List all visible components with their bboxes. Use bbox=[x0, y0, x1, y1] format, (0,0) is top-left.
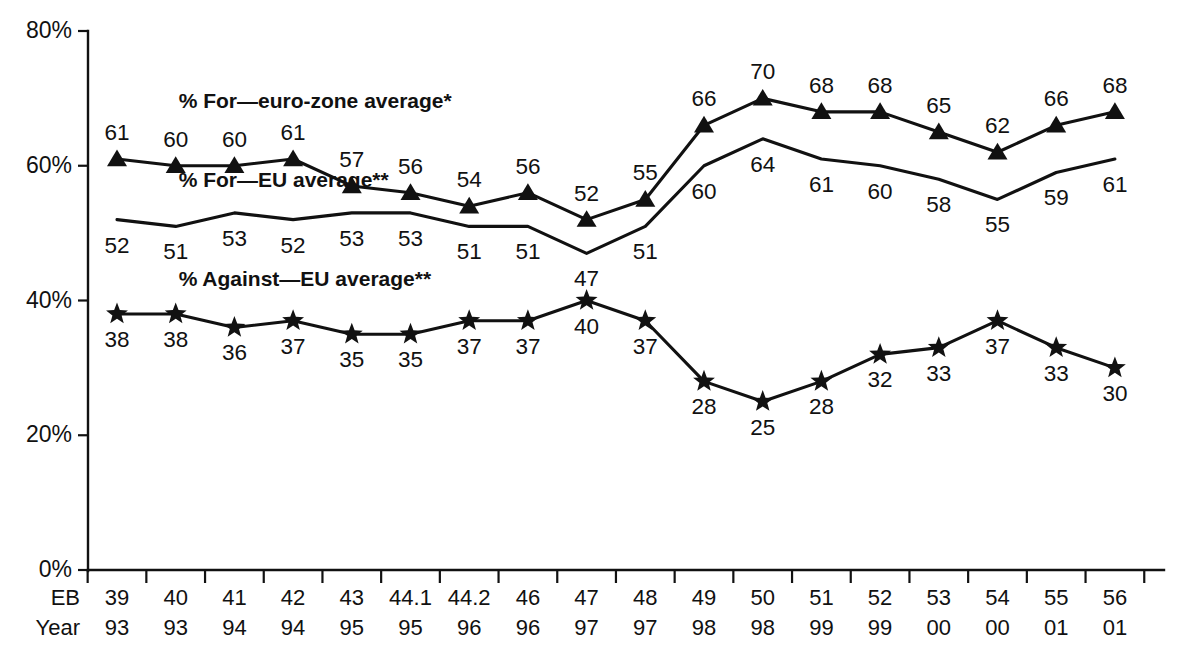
legend-annotation-1: % For—euro-zone average* bbox=[179, 89, 453, 112]
data-point-label: 60 bbox=[163, 127, 188, 152]
x-tick-label-eb: 40 bbox=[163, 585, 187, 610]
y-tick-label: 80% bbox=[26, 17, 72, 43]
x-tick-label-year: 97 bbox=[574, 615, 598, 640]
chart-container: 0%20%40%60%80% 6160606157565456525566706… bbox=[0, 0, 1177, 667]
x-tick-label-year: 01 bbox=[1103, 615, 1127, 640]
x-tick-label-eb: 44.1 bbox=[389, 585, 432, 610]
data-point-label: 52 bbox=[574, 181, 599, 206]
data-point-label: 28 bbox=[809, 394, 834, 419]
data-point-label: 33 bbox=[926, 361, 951, 386]
data-point-label: 30 bbox=[1102, 381, 1127, 406]
data-point-label: 51 bbox=[163, 239, 188, 264]
y-tick-label: 40% bbox=[26, 287, 72, 313]
x-tick-label-year: 99 bbox=[809, 615, 833, 640]
x-tick-label-year: 96 bbox=[516, 615, 540, 640]
data-point-marker bbox=[752, 390, 774, 411]
data-point-marker bbox=[869, 343, 891, 364]
series-1: 616060615756545652556670686865626668 bbox=[104, 59, 1127, 226]
data-point-label: 53 bbox=[339, 226, 364, 251]
data-point-label: 53 bbox=[222, 226, 247, 251]
x-axis bbox=[88, 570, 1164, 583]
data-point-label: 60 bbox=[222, 127, 247, 152]
x-tick-label-eb: 44.2 bbox=[448, 585, 491, 610]
data-point-label: 59 bbox=[1044, 185, 1069, 210]
data-point-label: 61 bbox=[281, 120, 306, 145]
y-tick-label: 60% bbox=[26, 152, 72, 178]
data-point-marker bbox=[223, 316, 245, 337]
data-point-label: 68 bbox=[809, 73, 834, 98]
data-point-marker bbox=[282, 309, 304, 330]
data-point-marker bbox=[1105, 102, 1125, 119]
x-tick-label-year: 94 bbox=[281, 615, 305, 640]
data-point-label: 52 bbox=[281, 233, 306, 258]
x-tick-label-eb: 53 bbox=[927, 585, 951, 610]
x-tick-label-year: 01 bbox=[1044, 615, 1068, 640]
y-tick-label: 20% bbox=[26, 421, 72, 447]
x-tick-label-year: 98 bbox=[692, 615, 716, 640]
data-point-marker bbox=[1045, 336, 1067, 357]
data-point-label: 66 bbox=[691, 86, 716, 111]
data-point-marker bbox=[106, 302, 128, 323]
x-tick-label-eb: 56 bbox=[1103, 585, 1127, 610]
data-point-label: 37 bbox=[515, 334, 540, 359]
data-point-label: 61 bbox=[809, 172, 834, 197]
data-point-label: 38 bbox=[163, 327, 188, 352]
x-tick-label-eb: 51 bbox=[809, 585, 833, 610]
x-tick-label-eb: 41 bbox=[222, 585, 246, 610]
x-tick-label-eb: 47 bbox=[574, 585, 598, 610]
x-tick-label-eb: 50 bbox=[750, 585, 774, 610]
data-point-label: 51 bbox=[457, 239, 482, 264]
data-point-label: 40 bbox=[574, 314, 599, 339]
series-group: 6160606157565456525566706868656266685251… bbox=[104, 59, 1127, 439]
data-point-label: 51 bbox=[633, 239, 658, 264]
data-point-marker bbox=[928, 336, 950, 357]
data-point-marker bbox=[694, 116, 714, 133]
data-point-label: 52 bbox=[104, 233, 129, 258]
data-point-label: 66 bbox=[1044, 86, 1069, 111]
legend-annotation-2: % For—EU average** bbox=[179, 168, 390, 191]
data-point-label: 60 bbox=[868, 179, 893, 204]
data-point-label: 61 bbox=[1102, 172, 1127, 197]
data-point-marker bbox=[283, 150, 303, 167]
series-line bbox=[117, 301, 1115, 402]
data-point-marker bbox=[1104, 356, 1126, 377]
series-line bbox=[117, 139, 1115, 254]
data-point-label: 60 bbox=[691, 179, 716, 204]
data-point-label: 35 bbox=[398, 347, 423, 372]
y-tick-label: 0% bbox=[39, 556, 72, 582]
x-tick-label-eb: 49 bbox=[692, 585, 716, 610]
series-3: 383836373535373740372825283233373330 bbox=[104, 289, 1127, 440]
series-line bbox=[117, 98, 1115, 219]
data-point-label: 47 bbox=[574, 266, 599, 291]
data-point-label: 58 bbox=[926, 192, 951, 217]
data-point-label: 68 bbox=[868, 73, 893, 98]
data-point-label: 37 bbox=[985, 334, 1010, 359]
x-tick-label-year: 95 bbox=[340, 615, 364, 640]
data-point-label: 37 bbox=[633, 334, 658, 359]
legend-annotation-3: % Against—EU average** bbox=[179, 267, 432, 290]
data-point-marker bbox=[165, 302, 187, 323]
x-tick-label-eb: 55 bbox=[1044, 585, 1068, 610]
data-point-marker bbox=[458, 309, 480, 330]
x-tick-label-year: 93 bbox=[105, 615, 129, 640]
data-point-label: 53 bbox=[398, 226, 423, 251]
data-point-label: 62 bbox=[985, 113, 1010, 138]
data-point-label: 61 bbox=[104, 120, 129, 145]
data-point-label: 56 bbox=[398, 154, 423, 179]
data-point-label: 65 bbox=[926, 93, 951, 118]
x-tick-label-year: 00 bbox=[927, 615, 951, 640]
data-point-label: 51 bbox=[515, 239, 540, 264]
data-point-label: 35 bbox=[339, 347, 364, 372]
data-point-label: 32 bbox=[868, 367, 893, 392]
data-point-label: 55 bbox=[633, 160, 658, 185]
x-tick-label-year: 97 bbox=[633, 615, 657, 640]
x-axis-row-head-eb: EB bbox=[51, 585, 80, 610]
data-point-label: 68 bbox=[1102, 73, 1127, 98]
data-point-marker bbox=[518, 183, 538, 200]
x-tick-label-year: 99 bbox=[868, 615, 892, 640]
data-point-label: 54 bbox=[457, 167, 482, 192]
data-point-marker bbox=[400, 323, 422, 344]
data-point-label: 64 bbox=[750, 152, 775, 177]
x-axis-row-head-year: Year bbox=[36, 615, 80, 640]
x-tick-label-group: EBYear3993409341944294439544.19544.29646… bbox=[36, 585, 1128, 640]
